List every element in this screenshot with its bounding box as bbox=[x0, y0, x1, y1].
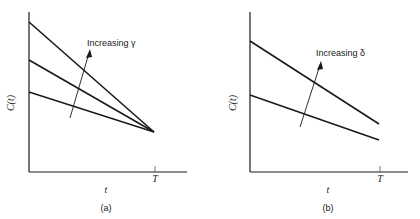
figure: Increasing γ C(t) t T (a) Increasing δ C… bbox=[0, 0, 420, 219]
y-axis-label: C(t) bbox=[5, 94, 17, 111]
x-tick-label: T bbox=[377, 173, 384, 184]
panel-caption: (b) bbox=[323, 203, 334, 213]
x-axis-label: t bbox=[105, 184, 108, 195]
x-tick-label: T bbox=[152, 173, 159, 184]
arrow-head-icon bbox=[317, 61, 323, 70]
annotation-label: Increasing δ bbox=[316, 48, 365, 58]
curve-low bbox=[250, 95, 379, 140]
x-axis-label: t bbox=[327, 184, 330, 195]
y-axis-label: C(t) bbox=[227, 94, 239, 111]
arrow-head-icon bbox=[86, 49, 92, 58]
panel-a: Increasing γ C(t) t T (a) bbox=[5, 12, 187, 213]
curve-low bbox=[29, 92, 154, 132]
panel-b: Increasing δ C(t) t T (b) bbox=[227, 12, 408, 213]
curve-mid bbox=[29, 60, 154, 132]
annotation-label: Increasing γ bbox=[87, 38, 136, 48]
panel-caption: (a) bbox=[101, 203, 112, 213]
